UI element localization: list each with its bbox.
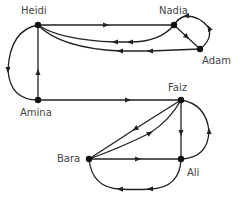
label-ali: Ali bbox=[187, 168, 199, 178]
node-bara bbox=[86, 156, 92, 162]
directed-graph bbox=[0, 0, 240, 201]
label-bara: Bara bbox=[57, 154, 80, 164]
label-adam: Adam bbox=[202, 56, 231, 66]
edge-adam-nadia bbox=[174, 16, 210, 49]
node-heidi bbox=[35, 22, 41, 28]
label-heidi: Heidi bbox=[21, 6, 47, 16]
node-faiz bbox=[178, 97, 184, 103]
edge-adam-heidi bbox=[38, 25, 200, 51]
edge-ali-bara bbox=[89, 159, 181, 190]
node-adam bbox=[197, 46, 203, 52]
label-faiz: Faiz bbox=[168, 83, 187, 93]
node-ali bbox=[178, 156, 184, 162]
label-nadia: Nadia bbox=[159, 6, 188, 16]
label-amina: Amina bbox=[20, 108, 52, 118]
node-nadia bbox=[171, 22, 177, 28]
node-amina bbox=[35, 97, 41, 103]
edge-heidi-amina bbox=[8, 25, 38, 100]
edge-faiz-bara bbox=[89, 100, 181, 159]
edge-nadia-adam bbox=[174, 25, 200, 49]
edge-ali-faiz bbox=[181, 100, 209, 159]
